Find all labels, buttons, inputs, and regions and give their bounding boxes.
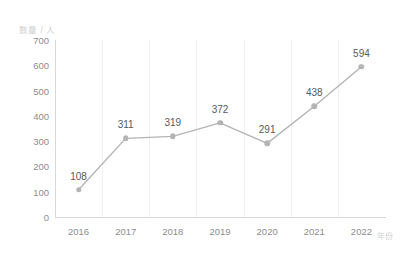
data-point-marker[interactable] [312,103,318,109]
data-point-value-label: 291 [259,124,276,135]
data-point-value-label: 319 [165,117,182,128]
data-point-value-label: 594 [353,48,370,59]
x-axis-tick-label: 2016 [68,226,89,237]
data-line [0,0,403,255]
x-axis-tick-label: 2022 [351,226,372,237]
data-point-value-label: 372 [212,104,229,115]
x-axis-tick-label: 2017 [115,226,136,237]
x-axis-tick-label: 2020 [257,226,278,237]
data-point-marker[interactable] [170,134,176,140]
data-point-marker[interactable] [76,187,82,193]
data-point-marker[interactable] [264,141,270,147]
data-point-value-label: 438 [306,87,323,98]
data-point-value-label: 108 [70,171,87,182]
x-axis-tick-label: 2019 [209,226,230,237]
x-axis-tick-label: 2018 [162,226,183,237]
data-point-marker[interactable] [123,136,129,142]
x-axis-tick-label: 2021 [304,226,325,237]
data-point-marker[interactable] [217,120,223,126]
data-point-marker[interactable] [359,64,365,70]
data-point-value-label: 311 [118,119,134,130]
line-chart: 数量 / 人 年份 0100200300400500600700 2016201… [0,0,403,255]
